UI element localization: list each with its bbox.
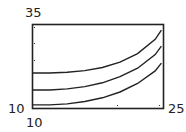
series-line-1 [32,30,161,73]
plot-frame [33,25,164,109]
y-min-label: 10 [8,102,25,115]
y-max-label: 35 [25,6,42,19]
x-max-label: 25 [168,102,185,115]
axis-tick-dots [34,27,160,106]
series-layer [32,30,161,105]
x-min-label: 10 [26,116,43,129]
